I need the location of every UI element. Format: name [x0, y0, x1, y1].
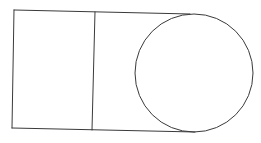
bottom-edge — [12, 128, 195, 132]
top-edge — [14, 10, 190, 14]
tangent-circle — [135, 14, 253, 132]
geometry-figure — [0, 0, 261, 143]
left-edge — [12, 10, 14, 128]
vertical-divider — [92, 12, 95, 130]
diagram-canvas — [0, 0, 261, 143]
